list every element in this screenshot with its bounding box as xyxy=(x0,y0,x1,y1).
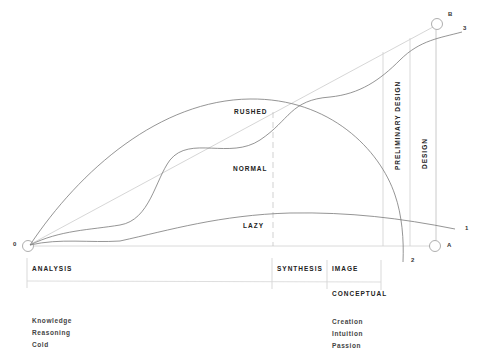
point-b xyxy=(432,19,443,30)
left-word-cold: Cold xyxy=(32,341,49,348)
diagram-canvas xyxy=(0,0,482,363)
curve-2-end-label: 2 xyxy=(411,257,415,263)
left-word-reasoning: Reasoning xyxy=(32,329,71,336)
point-a xyxy=(430,241,441,252)
conceptual-label: CONCEPTUAL xyxy=(332,290,387,297)
lazy-label: LAZY xyxy=(243,222,264,229)
process-diagram: 0 A B 3 1 2 RUSHED NORMAL LAZY PRELIMINA… xyxy=(0,0,482,363)
rushed-curve xyxy=(30,99,403,262)
right-word-creation: Creation xyxy=(332,318,363,325)
straight-line-0-to-b xyxy=(31,27,433,244)
preliminary-design-label: PRELIMINARY DESIGN xyxy=(394,81,401,170)
bracket-horizontal xyxy=(27,281,381,282)
left-word-knowledge: Knowledge xyxy=(32,317,72,324)
synthesis-label: SYNTHESIS xyxy=(277,265,323,272)
point-a-label: A xyxy=(447,242,452,248)
curve-3-end-label: 3 xyxy=(463,25,467,31)
image-label: IMAGE xyxy=(332,265,358,272)
right-word-passion: Passion xyxy=(332,342,361,349)
design-label: DESIGN xyxy=(421,138,428,169)
analysis-label: ANALYSIS xyxy=(32,265,72,272)
rushed-label: RUSHED xyxy=(234,108,267,115)
curve-1-end-label: 1 xyxy=(465,225,469,231)
normal-label: NORMAL xyxy=(233,165,268,172)
origin-label: 0 xyxy=(13,241,17,247)
point-b-label: B xyxy=(448,11,453,17)
right-word-intuition: Intuition xyxy=(332,330,363,337)
origin-point xyxy=(23,241,34,252)
